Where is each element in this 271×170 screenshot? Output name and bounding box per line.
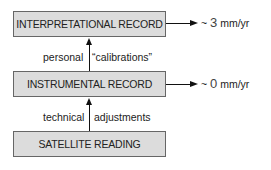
lower-edge-right-label: adjustments [94,111,151,123]
arrow-right-icon [190,81,198,87]
satellite-reading-label: SATELLITE READING [38,138,140,150]
interpretational-record-label: INTERPRETATIONAL RECORD [16,18,162,30]
arrow-right-icon [190,20,198,26]
upper-edge-right-label: “calibrations” [92,51,152,63]
approx-symbol: ~ [201,17,210,29]
upper-edge-left-label: personal [43,51,83,63]
lower-connector-line [89,104,90,131]
rate-unit: mm/yr [217,78,249,90]
instrumental-rate: ~ 0 mm/yr [201,76,249,91]
interpretational-rate: ~ 3 mm/yr [201,15,249,30]
lower-edge-left-label: technical [43,111,84,123]
satellite-reading-box: SATELLITE READING [13,131,166,157]
arrow-up-icon [86,98,92,105]
instrumental-record-box: INSTRUMENTAL RECORD [13,71,166,97]
instrumental-output-line [166,84,192,85]
arrow-up-icon [86,38,92,45]
upper-connector-line [89,44,90,71]
instrumental-record-label: INSTRUMENTAL RECORD [27,78,152,90]
approx-symbol: ~ [201,78,210,90]
rate-unit: mm/yr [217,17,249,29]
interpretational-output-line [166,23,192,24]
interpretational-record-box: INTERPRETATIONAL RECORD [13,11,166,37]
